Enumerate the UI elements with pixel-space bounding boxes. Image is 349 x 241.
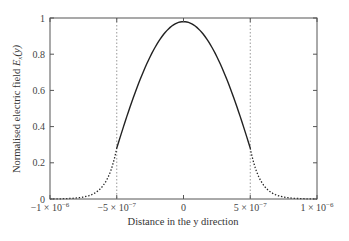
x-tick-label: 1 × 10−6	[300, 201, 334, 213]
plot-frame	[50, 18, 317, 199]
y-tick-label: 0	[40, 194, 45, 205]
y-tick-label: 0.6	[33, 85, 46, 96]
core-field-curve	[117, 22, 251, 149]
axes	[50, 18, 317, 199]
y-tick-label: 1	[40, 13, 45, 24]
data-series	[50, 22, 317, 199]
left-tail-curve	[50, 148, 117, 199]
y-tick-label: 0.4	[33, 121, 46, 132]
x-axis-ticks: −1 × 10−6−5 × 10−705 × 10−71 × 10−6	[31, 18, 334, 213]
y-axis-label-arg: (y)	[11, 44, 23, 56]
y-axis-label-main: Normalised electric field	[11, 66, 22, 173]
vertical-markers	[117, 18, 251, 199]
x-tick-label: −1 × 10−6	[31, 201, 70, 213]
right-tail-curve	[250, 148, 317, 199]
chart-svg: −1 × 10−6−5 × 10−705 × 10−71 × 10−6 00.2…	[0, 0, 349, 241]
y-axis-label: Normalised electric field Ex(y)	[11, 44, 24, 173]
x-tick-label: 0	[181, 202, 186, 213]
x-tick-label: 5 × 10−7	[234, 201, 268, 213]
x-tick-label: −5 × 10−7	[97, 201, 136, 213]
y-tick-label: 0.8	[33, 49, 46, 60]
y-axis-ticks: 00.20.40.60.81	[33, 13, 318, 205]
y-tick-label: 0.2	[33, 157, 46, 168]
x-axis-label: Distance in the y direction	[128, 216, 240, 227]
